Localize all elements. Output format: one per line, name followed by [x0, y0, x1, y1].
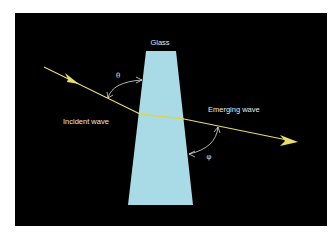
- refraction-diagram: Glass θ φ Incident wave Emerging wave: [0, 0, 336, 233]
- incident-wave-label: Incident wave: [63, 117, 109, 126]
- theta-label: θ: [116, 72, 120, 80]
- glass-label: Glass: [150, 38, 169, 47]
- emerging-wave-label: Emerging wave: [208, 105, 260, 114]
- phi-label: φ: [207, 153, 212, 161]
